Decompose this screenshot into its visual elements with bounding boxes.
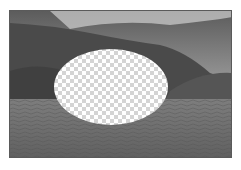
photo-canvas [10,11,232,158]
seascape-photo [9,10,232,158]
transparent-cutout [54,49,168,125]
